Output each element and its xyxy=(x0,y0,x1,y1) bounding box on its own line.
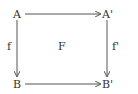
node-bottom-left: B xyxy=(13,78,21,91)
label-left: f xyxy=(7,40,12,53)
node-top-right: A' xyxy=(101,8,113,21)
label-right: f' xyxy=(112,40,119,53)
commutative-diagram: A A' B B' f F f' xyxy=(0,0,138,94)
node-bottom-right: B' xyxy=(102,78,113,91)
node-top-left: A xyxy=(12,8,22,21)
label-center: F xyxy=(58,40,66,53)
